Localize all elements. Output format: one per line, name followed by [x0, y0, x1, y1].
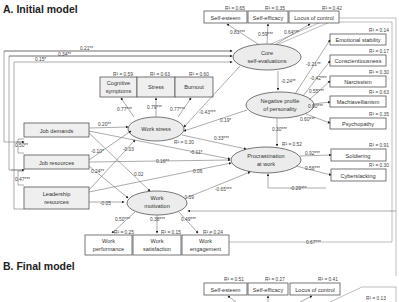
label-eng-2: engagement — [190, 246, 222, 252]
coef-neg-narc: 0.55*** — [309, 89, 324, 94]
label-leadership-1: Leadership — [43, 191, 71, 197]
label-self-esteem: Self-esteem — [211, 15, 241, 21]
label-locus: Locus of control — [294, 15, 334, 21]
node-negative-profile — [246, 92, 314, 118]
coef-neg-consc: -0.42*** — [310, 76, 327, 81]
panel-b-title: B. Final model — [3, 260, 75, 272]
coef-procr-cyber: 0.56*** — [305, 166, 320, 171]
coef-neg-ws: 0.19* — [220, 118, 231, 123]
r2-self-efficacy: R² = 0.35 — [265, 6, 285, 11]
coef-cse-locus: 0.64*** — [284, 30, 299, 35]
coef-wm-perf: 0.50*** — [115, 217, 130, 222]
coef-wm-sat: 0.38*** — [150, 217, 165, 222]
sem-diagram: A. Initial model B. Final model 0.21** 0… — [0, 0, 399, 302]
coef-neg-emotional: -0.21** — [306, 62, 321, 67]
b-r2-locus: R² = 0.41 — [318, 277, 338, 282]
coef-jr-procr: 0.16** — [156, 159, 169, 164]
label-wm-1: Work — [151, 195, 164, 201]
label-wm-2: motivation — [144, 203, 170, 209]
coef-jr-ws: -0.10* — [91, 149, 104, 154]
r2-self-esteem: R² = 0.65 — [225, 6, 245, 11]
r2-narcissism: R² = 0.30 — [369, 70, 389, 75]
coef-procr-soldiering: 0.92*** — [305, 151, 320, 156]
coef-jr-lr-cov: 0.47*** — [15, 177, 30, 182]
b-label-self-esteem: Self-esteem — [211, 287, 241, 293]
r2-work-performance: R² = 0.25 — [114, 230, 134, 235]
label-perf-1: Work — [102, 238, 115, 244]
label-burnout: Burnout — [184, 84, 204, 90]
coef-cse-procr-loop: -0.29*** — [290, 186, 307, 191]
b-r2-self-esteem: R² = 0.51 — [224, 277, 244, 282]
coef-lr-ws: -0.03 — [123, 147, 134, 152]
coef-cse-negprofile: -0.24** — [281, 79, 296, 84]
coef-cse-self-efficacy: 0.59*** — [258, 32, 273, 37]
r2-cyberslacking: R² = 0.30 — [369, 163, 389, 168]
coef-lr-procr: 0.06 — [193, 169, 203, 174]
label-job-resources: Job resources — [39, 160, 74, 166]
r2-cognitive: R² = 0.59 — [113, 72, 133, 77]
coef-jd-procr: -0.11* — [190, 150, 203, 155]
coef-jd-jr-cov: 0.50** — [15, 143, 28, 148]
coef-ws-procr: 0.33*** — [214, 136, 229, 141]
label-self-efficacy: Self-efficacy — [253, 15, 284, 21]
r2-psychopathy: R² = 0.35 — [369, 112, 389, 117]
label-leadership-2: resources — [44, 199, 69, 205]
coef-lr-cse: 0.15* — [35, 57, 46, 62]
coef-wm-eng: 0.49*** — [181, 217, 196, 222]
label-emotional-stability: Emotional stability — [335, 37, 380, 43]
coef-neg-psycho: 0.60*** — [300, 117, 315, 122]
label-cognitive-2: symptoms — [106, 88, 132, 94]
r2-stress: R² = 0.63 — [150, 72, 170, 77]
b-r2-partial: R² = 0.13 — [366, 296, 386, 301]
r2-machiavellianism: R² = 0.63 — [369, 90, 389, 95]
coef-neg-procr: 0.30*** — [272, 127, 287, 132]
r2-burnout: R² = 0.60 — [189, 72, 209, 77]
r2-work-satisfaction: R² = 0.15 — [161, 230, 181, 235]
label-work-stress: Work stress — [141, 126, 171, 132]
label-procr-1: Procrastination — [247, 153, 284, 159]
label-procr-2: at work — [257, 161, 275, 167]
label-perf-2: performance — [93, 246, 124, 252]
label-neg-2: of personality — [263, 106, 296, 112]
label-cyberslacking: Cyberslacking — [340, 173, 375, 179]
coef-ws-burnout: 0.77*** — [170, 107, 185, 112]
coef-outer-067: 0.67*** — [306, 240, 321, 245]
label-sat-1: Work — [151, 238, 164, 244]
label-sat-2: satisfaction — [143, 246, 171, 252]
label-eng-1: Work — [199, 238, 212, 244]
label-conscientiousness: Conscientiousness — [335, 58, 382, 64]
b-label-locus: Locus of control — [295, 287, 335, 293]
coef-ws-cog: 0.77*** — [117, 107, 132, 112]
coef-jr-cse: 0.34** — [58, 52, 71, 57]
node-procrastination — [231, 147, 301, 173]
panel-a-title: A. Initial model — [3, 3, 78, 15]
label-cognitive-1: Cognitive — [107, 80, 130, 86]
r2-procrastination: R² = 0.52 — [282, 142, 302, 147]
label-cse-1: Core — [261, 50, 273, 56]
coef-lr-wm: -0.05 — [100, 201, 111, 206]
r2-work-stress: R² = 0.30 — [174, 140, 194, 145]
label-psychopathy: Psychopathy — [342, 121, 374, 127]
coef-neg-mach: 0.80*** — [308, 104, 323, 109]
coef-jd-ws: 0.20** — [98, 122, 111, 127]
label-stress: Stress — [148, 84, 164, 90]
label-neg-1: Negative profile — [261, 98, 300, 104]
label-soldiering: Soldiering — [346, 153, 371, 159]
label-cse-2: self-evaluations — [248, 58, 287, 64]
coef-cse-self-esteem: 0.81*** — [230, 30, 245, 35]
b-r2-self-efficacy: R² = 0.27 — [265, 277, 285, 282]
r2-locus: R² = 0.42 — [322, 6, 342, 11]
label-machiavellianism: Machiavellianism — [337, 99, 380, 105]
coef-jd-cse: 0.21** — [80, 46, 93, 51]
r2-work-engagement: R² = 0.24 — [203, 230, 223, 235]
b-label-self-efficacy: Self-efficacy — [253, 287, 284, 293]
coef-ws-stress: 0.79*** — [147, 105, 162, 110]
r2-soldiering: R² = 0.91 — [369, 143, 389, 148]
coef-cse-ws: -0.43*** — [199, 110, 216, 115]
label-job-demands: Job demands — [40, 128, 74, 134]
label-narcissism: Narcissism — [344, 79, 372, 85]
r2-conscientiousness: R² = 0.17 — [369, 49, 389, 54]
r2-emotional-stability: R² = 0.14 — [369, 28, 389, 33]
node-core-self-evaluations — [233, 44, 301, 70]
coef-wm-procr: -0.65*** — [215, 187, 232, 192]
